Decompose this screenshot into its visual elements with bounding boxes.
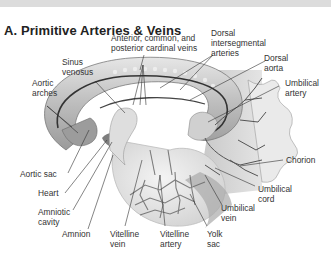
label-aortic-arches: Aortic arches — [32, 78, 57, 98]
label-amniotic-cavity: Amniotic cavity — [38, 207, 70, 227]
label-umbilical-cord: Umbilical cord — [258, 184, 292, 204]
label-amnion: Amnion — [62, 229, 90, 239]
label-umbilical-artery: Umbilical artery — [285, 78, 319, 98]
label-dorsal-aorta: Dorsal aorta — [264, 53, 288, 73]
label-aortic-sac: Aortic sac — [20, 169, 57, 179]
label-vitelline-artery: Vitelline artery — [160, 229, 189, 249]
label-sinus-venosus: Sinus venosus — [62, 57, 93, 77]
label-umbilical-vein: Umbilical vein — [221, 203, 255, 223]
label-cardinal-veins: Anterior, common, and posterior cardinal… — [111, 33, 197, 53]
label-yolk-sac: Yolk sac — [207, 229, 223, 249]
label-dorsal-intersegmental-arteries: Dorsal intersegmental arteries — [211, 28, 266, 58]
label-chorion: Chorion — [286, 155, 315, 165]
label-vitelline-vein: Vitelline vein — [110, 229, 139, 249]
label-heart: Heart — [38, 188, 58, 198]
